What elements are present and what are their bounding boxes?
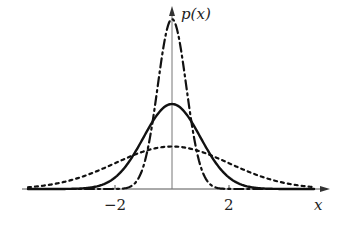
curves (28, 19, 314, 189)
y-axis-label: p(x) (181, 5, 211, 23)
x-axis-label: x (314, 196, 323, 214)
tick-label-pos2: 2 (224, 196, 234, 214)
x-axis-arrow-icon (320, 186, 330, 192)
tick-label-neg2: −2 (104, 196, 126, 214)
curve-dotted (28, 147, 314, 188)
y-axis-arrow-icon (169, 6, 175, 16)
chart-plot: p(x) x −2 2 (0, 0, 353, 230)
